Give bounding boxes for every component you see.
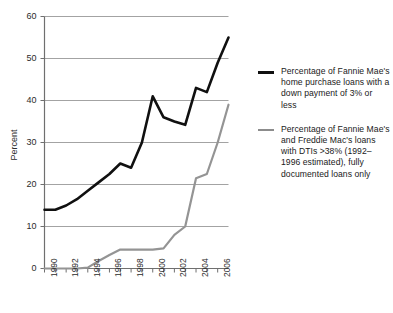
- x-tick-label: 2006: [222, 258, 232, 277]
- data-series-group: [45, 38, 229, 269]
- y-tick-label: 30: [11, 137, 37, 147]
- legend-item-label: Percentage of Fannie Mae's and Freddie M…: [281, 124, 390, 180]
- x-tick-label: 2000: [157, 258, 167, 277]
- x-tick-label: 1998: [135, 258, 145, 277]
- x-tick-label: 1996: [113, 258, 123, 277]
- y-tick-label: 50: [11, 53, 37, 63]
- x-tick-label: 2002: [178, 258, 188, 277]
- y-tick-label: 60: [11, 11, 37, 21]
- x-tick-label: 1994: [92, 258, 102, 277]
- legend-item-down-payment: Percentage of Fannie Mae's home purchase…: [258, 66, 390, 111]
- x-tick-label: 1992: [70, 258, 80, 277]
- x-tick-marks-group: [41, 17, 218, 273]
- legend-item-label: Percentage of Fannie Mae's home purchase…: [281, 66, 390, 111]
- x-tick-label: 2004: [200, 258, 210, 277]
- legend-item-dti: Percentage of Fannie Mae's and Freddie M…: [258, 124, 390, 180]
- series-line: [45, 38, 229, 210]
- chart-container: Percent 0102030405060 199019921994199619…: [0, 0, 393, 313]
- black-line-swatch-icon: [258, 71, 274, 74]
- y-tick-label: 20: [11, 179, 37, 189]
- y-tick-label: 0: [11, 263, 37, 273]
- chart-legend: Percentage of Fannie Mae's home purchase…: [258, 66, 390, 193]
- gridlines-group: [45, 17, 229, 227]
- x-tick-label: 1990: [49, 258, 59, 277]
- series-line: [45, 105, 229, 269]
- y-tick-label: 40: [11, 95, 37, 105]
- gray-line-swatch-icon: [258, 129, 274, 131]
- y-tick-label: 10: [11, 221, 37, 231]
